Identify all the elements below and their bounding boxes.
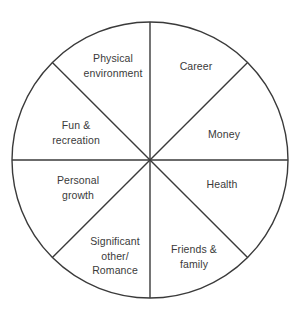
wheel-of-life-diagram: Physical environment Career Money Health… [0,0,300,320]
wheel-svg [0,0,300,320]
